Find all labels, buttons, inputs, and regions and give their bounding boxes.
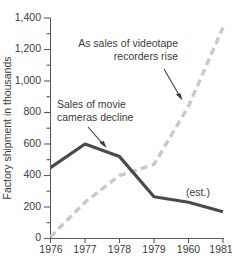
- videotape-annotation-arrow: [164, 69, 181, 98]
- y-tick-label: 1,200: [15, 42, 41, 54]
- y-axis-title: Factory shipment in thousands: [1, 57, 13, 200]
- line-chart: Factory shipment in thousands 0: [0, 0, 232, 260]
- movie-camera-annotation-arrow: [88, 127, 104, 145]
- y-axis-minor-ticks: [47, 34, 51, 223]
- videotape-annotation: As sales of videotape recorders rise: [78, 37, 182, 101]
- y-tick-label: 600: [23, 137, 41, 149]
- x-tick-label: 1979: [142, 243, 166, 255]
- movie-camera-annotation: Sales of movie cameras decline: [57, 98, 134, 148]
- x-tick-label: 1978: [108, 243, 132, 255]
- movie-camera-annotation-line1: Sales of movie: [57, 98, 126, 110]
- videotape-annotation-line1: As sales of videotape: [78, 37, 178, 49]
- x-axis-tick-labels: 1976 1977 1978 1979 1960 1981: [39, 243, 232, 255]
- x-tick-label: 1977: [73, 243, 97, 255]
- y-tick-label: 0: [35, 231, 41, 243]
- x-tick-label: 1960: [177, 243, 201, 255]
- x-tick-label: 1976: [39, 243, 63, 255]
- movie-camera-annotation-line2: cameras decline: [57, 111, 134, 123]
- y-tick-label: 1,400: [15, 11, 41, 23]
- y-axis-tick-labels: 0 200 400 600 800 1,000 1,200 1,400: [15, 11, 41, 244]
- y-tick-label: 400: [23, 168, 41, 180]
- x-tick-label: 1981: [209, 243, 232, 255]
- videotape-annotation-line2: recorders rise: [114, 50, 178, 62]
- chart-container: Factory shipment in thousands 0: [0, 0, 232, 260]
- estimate-note: (est.): [186, 186, 210, 198]
- y-tick-label: 1,000: [15, 74, 41, 86]
- y-tick-label: 800: [23, 105, 41, 117]
- y-tick-label: 200: [23, 200, 41, 212]
- series-movie-cameras: [51, 144, 224, 212]
